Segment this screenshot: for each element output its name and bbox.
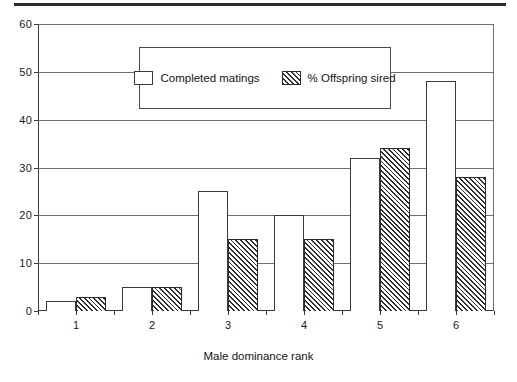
top-rule-divider xyxy=(14,3,506,6)
x-axis-tick-label-4: 4 xyxy=(301,319,307,331)
x-axis-tick-label-6: 6 xyxy=(453,319,459,331)
x-axis-title: Male dominance rank xyxy=(0,350,517,362)
bar-completed-matings-rank-3 xyxy=(198,191,228,311)
bar-completed-matings-rank-4 xyxy=(274,215,304,311)
y-axis-tick-label: 20 xyxy=(19,209,32,221)
legend-label-offspring-sired: % Offspring sired xyxy=(308,72,396,84)
x-axis-minor-tick-mark xyxy=(418,311,419,315)
bar-completed-matings-rank-6 xyxy=(426,81,456,311)
y-axis-tick-label: 60 xyxy=(19,18,32,30)
x-axis-tick-mark xyxy=(304,311,305,315)
bar-completed-matings-rank-1 xyxy=(46,301,76,311)
y-axis-tick-mark xyxy=(34,215,38,216)
bar-offspring-sired-rank-2 xyxy=(152,287,182,311)
legend-entry-completed-matings: Completed matings xyxy=(134,71,259,85)
legend-swatch-open-icon xyxy=(134,71,153,85)
y-axis-tick-mark xyxy=(34,168,38,169)
x-axis-tick-mark xyxy=(76,311,77,315)
chart-legend: Completed matings % Offspring sired xyxy=(139,47,391,109)
y-axis-tick-mark xyxy=(34,263,38,264)
y-axis-tick-mark xyxy=(34,120,38,121)
bar-offspring-sired-rank-5 xyxy=(380,148,410,311)
y-axis-tick-mark xyxy=(34,72,38,73)
bar-offspring-sired-rank-4 xyxy=(304,239,334,311)
x-axis-minor-tick-mark xyxy=(114,311,115,315)
legend-swatch-hatch-icon xyxy=(282,71,301,85)
x-axis-tick-label-5: 5 xyxy=(377,319,383,331)
y-axis-tick-label: 50 xyxy=(19,66,32,78)
x-axis-tick-label-2: 2 xyxy=(149,319,155,331)
y-axis-tick-label: 30 xyxy=(19,162,32,174)
bar-offspring-sired-rank-6 xyxy=(456,177,486,311)
y-axis-tick-mark xyxy=(34,24,38,25)
legend-label-completed-matings: Completed matings xyxy=(160,72,259,84)
y-axis-tick-label: 10 xyxy=(19,257,32,269)
x-axis-minor-tick-mark xyxy=(38,311,39,315)
bar-completed-matings-rank-2 xyxy=(122,287,152,311)
legend-entry-offspring-sired: % Offspring sired xyxy=(282,71,396,85)
x-axis-tick-label-3: 3 xyxy=(225,319,231,331)
x-axis-minor-tick-mark xyxy=(342,311,343,315)
x-axis-tick-mark xyxy=(380,311,381,315)
y-axis-tick-label: 0 xyxy=(26,305,32,317)
figure-container: 0102030405060 123456 Completed matings %… xyxy=(0,0,517,382)
x-axis-tick-label-1: 1 xyxy=(73,319,79,331)
bar-offspring-sired-rank-1 xyxy=(76,297,106,311)
bar-completed-matings-rank-5 xyxy=(350,158,380,311)
y-axis-tick-label: 40 xyxy=(19,114,32,126)
x-axis-tick-mark xyxy=(456,311,457,315)
x-axis-tick-mark xyxy=(228,311,229,315)
x-axis-tick-mark xyxy=(152,311,153,315)
x-axis-minor-tick-mark xyxy=(494,311,495,315)
x-axis-minor-tick-mark xyxy=(190,311,191,315)
bar-offspring-sired-rank-3 xyxy=(228,239,258,311)
x-axis-minor-tick-mark xyxy=(266,311,267,315)
